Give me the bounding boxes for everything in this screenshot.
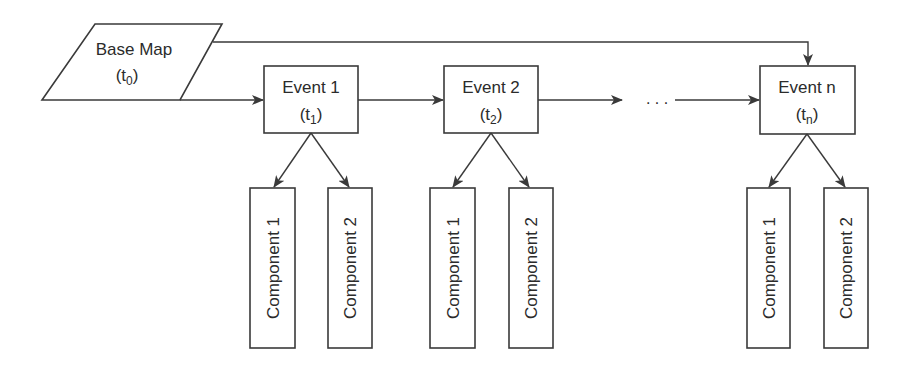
component-label: Component 1 [760,217,779,319]
base-map-node: Base Map (t0) [42,24,222,100]
event-1-title: Event 1 [282,78,340,97]
event-1-component-2: Component 2 [328,188,372,348]
edge-event-n-to-component-2 [807,134,845,187]
event-2-node: Event 2 (t2) [444,66,538,133]
edge-event-2-to-component-1 [453,133,491,187]
event-2-component-1: Component 1 [430,188,475,348]
component-label: Component 1 [444,217,463,319]
event-1-node: Event 1 (t1) [264,66,358,133]
event-n-component-2: Component 2 [824,188,868,348]
component-label: Component 2 [522,217,541,319]
event-2-title: Event 2 [462,78,520,97]
event-n-title: Event n [778,78,836,97]
event-n-component-1: Component 1 [747,188,790,348]
edge-event-2-to-component-2 [491,133,529,187]
component-label: Component 1 [264,217,283,319]
edge-event-1-to-component-2 [311,133,349,187]
edge-event-n-to-component-1 [769,134,807,187]
base-map-shape [42,24,222,100]
event-1-component-1: Component 1 [250,188,295,348]
edge-event-1-to-component-1 [274,133,311,187]
ellipsis: . . . [646,90,668,107]
event-n-node: Event n (tn) [760,66,855,134]
component-label: Component 2 [837,217,856,319]
event-2-component-2: Component 2 [509,188,553,348]
edge-basemap-to-event-n [213,42,808,65]
flowchart-diagram: Base Map (t0) . . . Event 1 (t1) Compone… [0,0,906,390]
base-map-title: Base Map [96,40,173,59]
component-label: Component 2 [341,217,360,319]
